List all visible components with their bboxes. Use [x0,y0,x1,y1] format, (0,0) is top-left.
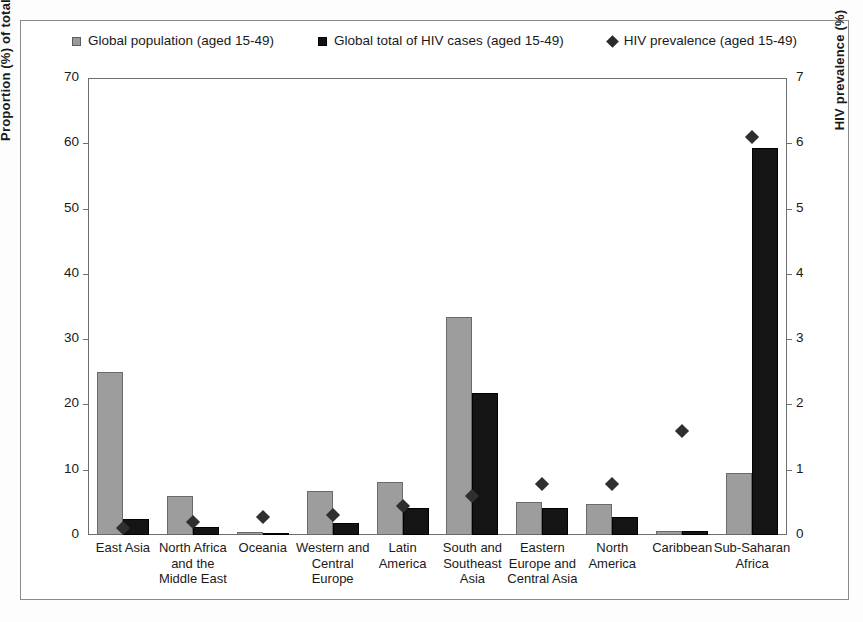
bar-hiv-cases [472,393,498,535]
y-axis-right-tick-label: 0 [787,527,804,541]
marker-hiv-prevalence [605,477,619,491]
y-axis-right-tick-label: 6 [787,135,804,149]
y-axis-left-title: Proportion (%) of total [0,0,13,180]
legend-label-hiv-cases: Global total of HIV cases (aged 15-49) [334,34,564,48]
bar-group [717,78,787,535]
x-axis-tick-label: Sub-SaharanAfrica [705,540,799,571]
legend-swatch-square-gray-icon [72,37,81,46]
data-marks-layer [88,78,787,535]
x-axis-tick-label-line: Middle East [146,571,240,587]
y-axis-right-tick-mark [787,404,792,405]
bar-hiv-cases [403,508,429,535]
x-axis-tick-label-line: Sub-Saharan [705,540,799,556]
y-axis-right-tick-label: 3 [787,331,804,345]
bar-global-population [726,473,752,535]
bar-group [228,78,298,535]
y-axis-right-tick-mark [787,143,792,144]
bar-group [647,78,717,535]
y-axis-left-tick-label: 40 [64,266,88,280]
y-axis-right-title: HIV prevalence (%) [832,0,847,180]
legend-label-global-population: Global population (aged 15-49) [88,34,274,48]
y-axis-left-tick-label: 10 [64,462,88,476]
bar-hiv-cases [752,148,778,535]
y-axis-left-tick-label: 0 [71,527,88,541]
y-axis-right-tick-mark [787,470,792,471]
bar-hiv-cases [612,517,638,535]
bar-hiv-cases [682,531,708,535]
bar-group [158,78,228,535]
bar-global-population [656,531,682,535]
plot-wrapper: 010203040506070 01234567 [88,78,787,535]
marker-hiv-prevalence [675,423,689,437]
chart-legend: Global population (aged 15-49) Global to… [20,28,849,54]
bar-group [577,78,647,535]
x-axis-tick-label-line: America [565,556,659,572]
y-axis-left-tick-label: 50 [64,201,88,215]
bar-hiv-cases [542,508,568,535]
legend-swatch-square-black-icon [318,37,327,46]
x-axis-tick-label-line: and the [146,556,240,572]
y-axis-right-tick-mark [787,209,792,210]
bar-hiv-cases [333,523,359,535]
bar-group [298,78,368,535]
y-axis-right-tick-mark [787,339,792,340]
x-axis-tick-label-line: Africa [705,556,799,572]
y-axis-left-tick-label: 70 [64,70,88,84]
bar-group [438,78,508,535]
x-axis-tick-label-line: Central Asia [495,571,589,587]
y-axis-left-tick-label: 30 [64,331,88,345]
marker-hiv-prevalence [535,477,549,491]
y-axis-left-tick-label: 20 [64,396,88,410]
y-axis-right-tick-mark [787,274,792,275]
legend-label-hiv-prevalence: HIV prevalence (aged 15-49) [624,34,797,48]
bar-group [507,78,577,535]
y-axis-left-tick-label: 60 [64,135,88,149]
bar-global-population [516,502,542,535]
y-axis-right-tick-label: 7 [787,70,804,84]
chart-figure: Global population (aged 15-49) Global to… [0,0,863,622]
bar-global-population [167,496,193,535]
bar-group [368,78,438,535]
y-axis-right-tick-label: 5 [787,201,804,215]
bar-global-population [97,372,123,535]
marker-hiv-prevalence [256,510,270,524]
bar-hiv-cases [263,533,289,535]
legend-item-hiv-prevalence: HIV prevalence (aged 15-49) [608,34,797,48]
bar-hiv-cases [193,527,219,535]
y-axis-right-tick-label: 1 [787,462,804,476]
bar-group [88,78,158,535]
bar-global-population [586,504,612,535]
x-axis-tick-label-line: Europe [286,571,380,587]
marker-hiv-prevalence [745,130,759,144]
legend-item-hiv-cases: Global total of HIV cases (aged 15-49) [318,34,564,48]
legend-swatch-diamond-icon [606,35,619,48]
y-axis-right-tick-label: 2 [787,396,804,410]
legend-item-global-population: Global population (aged 15-49) [72,34,274,48]
x-axis-labels: East AsiaNorth Africaand theMiddle EastO… [88,540,787,596]
bar-global-population [237,532,263,535]
bar-global-population [446,317,472,535]
y-axis-right-tick-label: 4 [787,266,804,280]
